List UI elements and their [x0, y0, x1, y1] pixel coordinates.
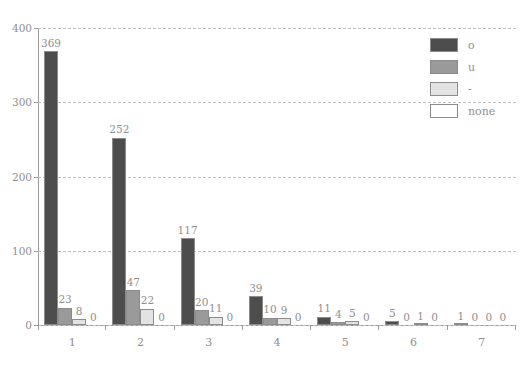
legend-label: u — [468, 61, 475, 74]
y-tick-label-400: 400 — [0, 22, 32, 34]
bar-2-u: 47 — [126, 28, 140, 325]
bar-rect — [112, 138, 126, 325]
bar-value-label: 11 — [317, 303, 330, 314]
bar-value-label: 8 — [76, 306, 83, 317]
legend-item-o[interactable]: o — [430, 34, 530, 56]
bar-1-none: 0 — [86, 28, 100, 325]
bar-value-label: 5 — [389, 308, 396, 319]
bar-6-u: 0 — [399, 28, 413, 325]
bar-rect — [331, 322, 345, 325]
bar-value-label: 22 — [141, 295, 154, 306]
bar-rect — [317, 317, 331, 325]
bar-3-u: 20 — [195, 28, 209, 325]
bar-value-label: 0 — [295, 312, 302, 323]
bar-rect — [72, 319, 86, 325]
bar-value-label: 0 — [500, 312, 507, 323]
x-axis-label-7: 7 — [478, 336, 485, 349]
bar-rect — [454, 323, 468, 325]
bar-rect — [277, 318, 291, 325]
bar-1-u: 23 — [58, 28, 72, 325]
bar-2-none: 0 — [154, 28, 168, 325]
bar-value-label: 10 — [263, 304, 276, 315]
x-group-separator — [174, 325, 175, 330]
bar-1--: 8 — [72, 28, 86, 325]
bar-value-label: 0 — [363, 312, 370, 323]
gridline-0 — [38, 325, 516, 326]
bar-6-o: 5 — [385, 28, 399, 325]
bar-chart: 3692380252472201172011039109011450501010… — [0, 0, 532, 368]
legend-swatch-icon — [430, 82, 458, 96]
bar-value-label: 0 — [471, 312, 478, 323]
bar-rect — [345, 321, 359, 325]
bar-4--: 9 — [277, 28, 291, 325]
y-tick-label-0: 0 — [0, 319, 32, 331]
bar-value-label: 39 — [249, 283, 262, 294]
bar-rect — [126, 290, 140, 325]
legend-label: none — [468, 105, 495, 118]
bar-5--: 5 — [345, 28, 359, 325]
bar-value-label: 47 — [127, 277, 140, 288]
bar-value-label: 0 — [90, 312, 97, 323]
x-group-separator — [38, 325, 39, 330]
bar-3--: 11 — [209, 28, 223, 325]
x-group-separator — [447, 325, 448, 330]
x-group-separator — [105, 325, 106, 330]
chart-legend: ou-none — [430, 34, 530, 122]
x-axis-label-5: 5 — [342, 336, 349, 349]
bar-5-u: 4 — [331, 28, 345, 325]
bar-3-none: 0 — [223, 28, 237, 325]
legend-item--[interactable]: - — [430, 78, 530, 100]
bar-rect — [209, 317, 223, 325]
x-axis-label-1: 1 — [69, 336, 76, 349]
bar-rect — [249, 296, 263, 325]
bar-3-o: 117 — [181, 28, 195, 325]
bar-rect — [58, 308, 72, 325]
bar-4-u: 10 — [263, 28, 277, 325]
y-tick-mark-300 — [34, 102, 38, 103]
y-tick-label-300: 300 — [0, 96, 32, 108]
x-axis-label-3: 3 — [205, 336, 212, 349]
bar-group-1: 3692380 — [38, 28, 106, 325]
bar-value-label: 0 — [431, 312, 438, 323]
bar-4-none: 0 — [291, 28, 305, 325]
x-group-separator — [242, 325, 243, 330]
bar-5-o: 11 — [317, 28, 331, 325]
legend-label: o — [468, 39, 475, 52]
legend-swatch-icon — [430, 104, 458, 118]
y-tick-mark-100 — [34, 251, 38, 252]
bar-value-label: 23 — [58, 294, 71, 305]
bar-rect — [181, 238, 195, 325]
bar-value-label: 0 — [158, 312, 165, 323]
bar-value-label: 5 — [349, 308, 356, 319]
bar-value-label: 0 — [226, 312, 233, 323]
x-axis-label-6: 6 — [410, 336, 417, 349]
bar-value-label: 11 — [209, 303, 222, 314]
bar-rect — [195, 310, 209, 325]
x-group-separator — [378, 325, 379, 330]
bar-group-4: 391090 — [243, 28, 311, 325]
legend-swatch-icon — [430, 60, 458, 74]
legend-item-u[interactable]: u — [430, 56, 530, 78]
x-axis-label-2: 2 — [137, 336, 144, 349]
bar-rect — [414, 323, 428, 325]
bar-5-none: 0 — [359, 28, 373, 325]
bar-value-label: 1 — [417, 311, 424, 322]
bar-group-3: 11720110 — [175, 28, 243, 325]
legend-swatch-icon — [430, 38, 458, 52]
bar-1-o: 369 — [44, 28, 58, 325]
bar-rect — [140, 309, 154, 325]
y-tick-label-200: 200 — [0, 171, 32, 183]
bar-value-label: 4 — [335, 309, 342, 320]
bar-4-o: 39 — [249, 28, 263, 325]
bar-6--: 1 — [414, 28, 428, 325]
y-tick-mark-200 — [34, 177, 38, 178]
bar-rect — [263, 318, 277, 325]
bar-value-label: 20 — [195, 297, 208, 308]
bar-value-label: 1 — [457, 311, 464, 322]
bar-group-5: 11450 — [311, 28, 379, 325]
y-tick-label-100: 100 — [0, 245, 32, 257]
legend-item-none[interactable]: none — [430, 100, 530, 122]
bar-2-o: 252 — [112, 28, 126, 325]
legend-label: - — [468, 83, 472, 96]
x-axis-label-4: 4 — [274, 336, 281, 349]
